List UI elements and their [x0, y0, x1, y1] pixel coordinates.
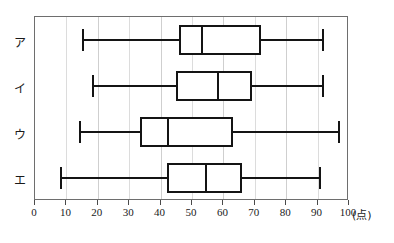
x-tick-label-80: 80: [270, 206, 300, 218]
box-plot-row: [35, 155, 347, 201]
x-tick-30: [128, 200, 129, 205]
box-plot-chart: ア イ ウ エ 0102030405060708090100 (点): [0, 0, 394, 243]
box-plot-row: [35, 109, 347, 155]
median-line: [167, 117, 169, 147]
median-line: [217, 71, 219, 101]
category-label-1: イ: [10, 79, 30, 96]
plot-area: [34, 16, 348, 200]
box-iqr: [140, 117, 233, 147]
whisker-cap-max: [322, 29, 324, 51]
x-axis: 0102030405060708090100: [34, 200, 348, 226]
median-line: [205, 163, 207, 193]
whisker-cap-min: [79, 121, 81, 143]
x-tick-40: [160, 200, 161, 205]
x-tick-label-90: 90: [302, 206, 332, 218]
x-tick-label-60: 60: [207, 206, 237, 218]
x-tick-70: [254, 200, 255, 205]
x-tick-label-40: 40: [145, 206, 175, 218]
whisker-cap-max: [338, 121, 340, 143]
x-axis-unit-label: (点): [352, 206, 372, 222]
x-tick-80: [285, 200, 286, 205]
box-plot-row: [35, 63, 347, 109]
x-tick-label-70: 70: [239, 206, 269, 218]
category-label-0: ア: [10, 33, 30, 50]
x-tick-10: [65, 200, 66, 205]
whisker-cap-min: [92, 75, 94, 97]
x-tick-0: [34, 200, 35, 205]
x-tick-50: [191, 200, 192, 205]
x-tick-label-30: 30: [113, 206, 143, 218]
x-tick-20: [97, 200, 98, 205]
whisker-cap-max: [322, 75, 324, 97]
x-tick-label-10: 10: [50, 206, 80, 218]
box-plot-row: [35, 17, 347, 63]
x-tick-label-0: 0: [19, 206, 49, 218]
median-line: [201, 25, 203, 55]
x-tick-90: [317, 200, 318, 205]
whisker-cap-min: [60, 167, 62, 189]
whisker-cap-max: [319, 167, 321, 189]
category-label-3: エ: [10, 171, 30, 188]
x-tick-60: [222, 200, 223, 205]
whisker-cap-min: [82, 29, 84, 51]
category-label-2: ウ: [10, 125, 30, 142]
x-tick-label-20: 20: [82, 206, 112, 218]
box-iqr: [176, 71, 251, 101]
box-iqr: [179, 25, 261, 55]
x-tick-label-50: 50: [176, 206, 206, 218]
x-tick-100: [348, 200, 349, 205]
